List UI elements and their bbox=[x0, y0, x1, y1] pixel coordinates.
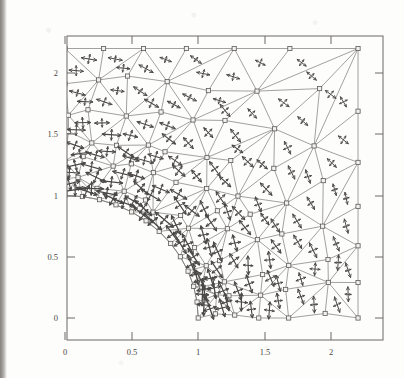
principal-stress-glyph bbox=[82, 54, 97, 63]
y-tick-label-0: 0 bbox=[54, 313, 58, 323]
mesh-edge bbox=[257, 89, 320, 92]
mesh-edge bbox=[65, 80, 99, 84]
principal-stress-glyph bbox=[205, 269, 217, 287]
stress-axis-line bbox=[212, 167, 218, 171]
principal-stress-glyph bbox=[307, 72, 316, 80]
mesh-node-marker bbox=[287, 316, 291, 320]
mesh-node-marker bbox=[151, 171, 155, 175]
stress-axis-line bbox=[241, 225, 248, 230]
mesh-edge bbox=[188, 228, 194, 247]
mesh-edge bbox=[92, 116, 126, 143]
principal-stress-glyph bbox=[284, 142, 292, 154]
mesh-edge bbox=[176, 182, 207, 188]
mesh-node-marker bbox=[287, 263, 291, 267]
mesh-edge bbox=[286, 289, 289, 318]
stress-axis-line bbox=[124, 149, 129, 155]
principal-stress-glyph bbox=[86, 172, 106, 183]
principal-stress-glyph bbox=[271, 240, 281, 253]
mesh-node-marker bbox=[165, 80, 169, 84]
mesh-edge bbox=[257, 49, 358, 92]
mesh-edge bbox=[234, 49, 257, 92]
principal-stress-glyph bbox=[247, 301, 255, 317]
mesh-edge bbox=[126, 76, 127, 116]
mesh-node-marker bbox=[255, 238, 259, 242]
mesh-edge bbox=[113, 166, 124, 191]
mesh-edge bbox=[92, 143, 117, 145]
stress-axis-line bbox=[184, 140, 192, 146]
mesh-node-marker bbox=[288, 46, 292, 50]
mesh-edge bbox=[68, 115, 91, 143]
stress-arrowhead bbox=[63, 189, 66, 192]
y-tick-label-1: 0.5 bbox=[47, 252, 58, 262]
principal-stress-glyph bbox=[118, 147, 134, 158]
principal-stress-glyph bbox=[257, 160, 267, 169]
mesh-node-marker bbox=[143, 198, 147, 202]
mesh-edge bbox=[68, 110, 88, 115]
principal-stress-glyph bbox=[183, 94, 196, 101]
mesh-node-marker bbox=[356, 204, 360, 208]
mesh-edge bbox=[289, 259, 328, 265]
principal-stress-glyph bbox=[265, 302, 274, 319]
x-tick-label-4: 2 bbox=[329, 347, 333, 357]
mesh-node-marker bbox=[356, 244, 360, 248]
y-tick-label-3: 1.5 bbox=[47, 129, 58, 139]
stress-axis-line bbox=[294, 239, 301, 244]
mesh-node-marker bbox=[272, 166, 276, 170]
mesh-edge bbox=[261, 295, 289, 318]
principal-stress-glyph bbox=[296, 273, 305, 285]
mesh-edge bbox=[274, 146, 314, 168]
mesh-edge bbox=[229, 295, 261, 296]
principal-stress-glyph bbox=[111, 87, 124, 94]
principal-stress-glyph bbox=[169, 156, 182, 165]
mesh-edge bbox=[235, 315, 259, 318]
stress-axis-line bbox=[206, 219, 216, 226]
mesh-edge bbox=[261, 275, 263, 296]
mesh-edge bbox=[314, 111, 358, 146]
mesh-node-marker bbox=[356, 46, 360, 50]
mesh-node-marker bbox=[321, 224, 325, 228]
mesh-edge bbox=[238, 196, 287, 203]
principal-stress-glyph bbox=[170, 189, 186, 199]
mesh-edge bbox=[323, 181, 324, 227]
mesh-node-marker bbox=[261, 272, 265, 276]
stress-axis-line bbox=[300, 60, 304, 66]
mesh-edge bbox=[167, 82, 208, 91]
principal-stress-glyph bbox=[345, 287, 351, 302]
mesh-node-marker bbox=[318, 86, 322, 90]
principal-stress-glyph bbox=[137, 120, 153, 129]
x-tick-label-3: 1.5 bbox=[260, 347, 271, 357]
principal-stress-glyph bbox=[274, 293, 282, 308]
principal-stress-glyph bbox=[67, 141, 84, 149]
principal-stress-glyph bbox=[232, 206, 244, 219]
mesh-node-marker bbox=[86, 108, 90, 112]
principal-stress-glyph bbox=[173, 165, 185, 176]
principal-stress-glyph bbox=[345, 263, 351, 277]
mesh-edge bbox=[126, 112, 161, 116]
principal-stress-glyph bbox=[152, 184, 169, 193]
mesh-node-marker bbox=[206, 89, 210, 93]
mesh-edge bbox=[314, 146, 358, 162]
mesh-node-marker bbox=[356, 160, 360, 164]
principal-stress-glyph bbox=[213, 97, 225, 103]
principal-stress-glyph bbox=[204, 128, 213, 137]
mesh-node-marker bbox=[186, 269, 190, 273]
mesh-edge bbox=[250, 214, 257, 239]
mesh-edge bbox=[224, 275, 262, 282]
principal-stress-glyph bbox=[220, 177, 231, 187]
mesh-node-marker bbox=[63, 177, 67, 181]
mesh-node-marker bbox=[356, 280, 360, 284]
principal-stress-glyph bbox=[184, 138, 194, 149]
mesh-node-marker bbox=[63, 159, 67, 163]
principal-stress-glyph bbox=[297, 289, 304, 304]
mesh-edge bbox=[328, 246, 358, 283]
principal-stress-glyph bbox=[197, 70, 210, 78]
principal-stress-glyph bbox=[210, 162, 221, 176]
mesh-edge bbox=[257, 49, 290, 92]
mesh-node-marker bbox=[178, 213, 182, 217]
mesh-node-marker bbox=[280, 232, 284, 236]
mesh-edge bbox=[88, 110, 92, 143]
mesh-edge bbox=[69, 131, 92, 143]
mesh-edge bbox=[188, 228, 227, 229]
mesh-node-marker bbox=[225, 227, 229, 231]
stress-arrowhead bbox=[59, 184, 62, 187]
